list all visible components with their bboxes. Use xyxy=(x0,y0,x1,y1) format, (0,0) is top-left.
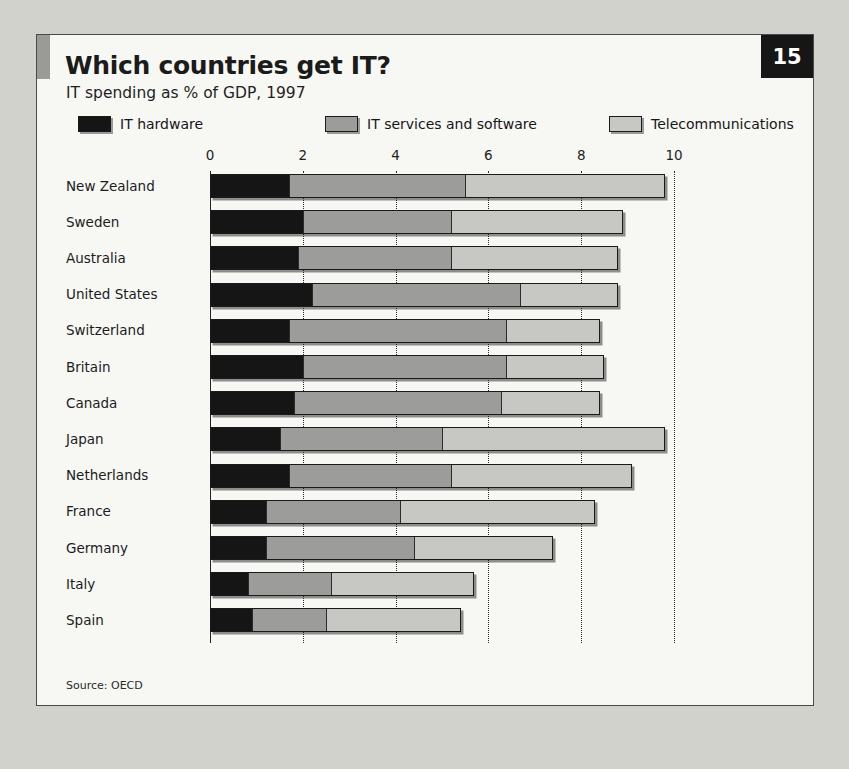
bar-segment-telecom xyxy=(332,573,474,595)
category-label-netherlands: Netherlands xyxy=(66,467,148,483)
bar-row: Sweden xyxy=(66,207,792,236)
page-background: 15 Which countries get IT? IT spending a… xyxy=(0,0,849,769)
corner-accent-bar xyxy=(37,35,50,79)
bar-segment-hardware xyxy=(211,320,289,342)
bar-rows: New ZealandSwedenAustraliaUnited StatesS… xyxy=(66,171,792,643)
bar-row: Germany xyxy=(66,533,792,562)
legend-swatch-telecom xyxy=(609,116,642,132)
bar-segment-hardware xyxy=(211,392,294,414)
legend-swatch-hardware xyxy=(78,116,111,132)
bar-segment-services xyxy=(303,356,507,378)
stacked-bar xyxy=(210,391,600,415)
bar-segment-hardware xyxy=(211,609,252,631)
stacked-bar xyxy=(210,608,461,632)
chart-title: Which countries get IT? xyxy=(65,51,391,80)
bar-segment-services xyxy=(289,175,466,197)
bar-row: Britain xyxy=(66,352,792,381)
bar-segment-services xyxy=(252,609,327,631)
stacked-bar xyxy=(210,283,618,307)
bar-segment-services xyxy=(298,247,452,269)
bar-segment-telecom xyxy=(452,465,631,487)
bar-segment-services xyxy=(289,320,507,342)
x-tick-label-4: 4 xyxy=(391,147,400,163)
category-label-japan: Japan xyxy=(66,431,104,447)
bar-segment-hardware xyxy=(211,175,289,197)
bar-segment-services xyxy=(266,501,401,523)
bar-segment-telecom xyxy=(521,284,617,306)
x-tick-label-2: 2 xyxy=(299,147,308,163)
bar-segment-telecom xyxy=(415,537,553,559)
category-label-italy: Italy xyxy=(66,576,95,592)
category-label-new-zealand: New Zealand xyxy=(66,178,155,194)
stacked-bar xyxy=(210,572,474,596)
bar-row: Italy xyxy=(66,569,792,598)
stacked-bar xyxy=(210,319,600,343)
bar-segment-services xyxy=(266,537,415,559)
legend-label-telecom: Telecommunications xyxy=(651,116,794,132)
x-tick-label-10: 10 xyxy=(665,147,682,163)
category-label-sweden: Sweden xyxy=(66,214,119,230)
x-axis-tick-labels: 0246810 xyxy=(66,147,792,171)
legend-label-hardware: IT hardware xyxy=(120,116,203,132)
legend-item-hardware: IT hardware xyxy=(78,116,203,132)
bar-segment-services xyxy=(303,211,452,233)
legend-item-telecom: Telecommunications xyxy=(609,116,794,132)
bar-segment-hardware xyxy=(211,465,289,487)
bar-segment-telecom xyxy=(401,501,594,523)
bar-segment-hardware xyxy=(211,537,266,559)
category-label-switzerland: Switzerland xyxy=(66,322,145,338)
x-tick-label-0: 0 xyxy=(206,147,215,163)
bar-segment-services xyxy=(280,428,443,450)
bar-segment-hardware xyxy=(211,501,266,523)
stacked-bar xyxy=(210,464,632,488)
stacked-bar xyxy=(210,174,665,198)
stacked-bar xyxy=(210,500,595,524)
stacked-bar xyxy=(210,246,618,270)
chart-legend: IT hardwareIT services and softwareTelec… xyxy=(66,116,792,138)
bar-segment-telecom xyxy=(452,247,617,269)
plot-area: 0246810 New ZealandSwedenAustraliaUnited… xyxy=(66,147,792,667)
bar-segment-services xyxy=(294,392,503,414)
stacked-bar xyxy=(210,210,623,234)
bar-row: Netherlands xyxy=(66,461,792,490)
bar-segment-telecom xyxy=(327,609,459,631)
stacked-bar xyxy=(210,536,553,560)
category-label-france: France xyxy=(66,503,111,519)
bar-row: France xyxy=(66,497,792,526)
bar-segment-hardware xyxy=(211,247,298,269)
legend-swatch-services xyxy=(325,116,358,132)
bar-segment-hardware xyxy=(211,573,248,595)
bar-segment-hardware xyxy=(211,284,312,306)
legend-item-services: IT services and software xyxy=(325,116,537,132)
category-label-canada: Canada xyxy=(66,395,117,411)
bar-segment-telecom xyxy=(507,356,603,378)
category-label-australia: Australia xyxy=(66,250,126,266)
bar-segment-hardware xyxy=(211,428,280,450)
chart-subtitle: IT spending as % of GDP, 1997 xyxy=(66,84,306,102)
bar-segment-hardware xyxy=(211,356,303,378)
bar-row: Australia xyxy=(66,243,792,272)
bar-row: United States xyxy=(66,280,792,309)
source-note: Source: OECD xyxy=(66,679,143,692)
stacked-bar xyxy=(210,427,665,451)
chart-panel: 15 Which countries get IT? IT spending a… xyxy=(36,34,814,706)
category-label-united-states: United States xyxy=(66,286,157,302)
bar-row: Japan xyxy=(66,424,792,453)
page-number-badge: 15 xyxy=(761,35,813,78)
category-label-britain: Britain xyxy=(66,359,110,375)
bar-segment-telecom xyxy=(507,320,599,342)
x-tick-label-6: 6 xyxy=(484,147,493,163)
bar-segment-services xyxy=(248,573,332,595)
bar-segment-telecom xyxy=(452,211,622,233)
bar-segment-services xyxy=(289,465,452,487)
bar-segment-hardware xyxy=(211,211,303,233)
category-label-germany: Germany xyxy=(66,540,128,556)
bar-row: Switzerland xyxy=(66,316,792,345)
bar-row: Spain xyxy=(66,605,792,634)
legend-label-services: IT services and software xyxy=(367,116,537,132)
bar-row: New Zealand xyxy=(66,171,792,200)
bar-segment-telecom xyxy=(443,428,664,450)
bar-segment-telecom xyxy=(466,175,664,197)
stacked-bar xyxy=(210,355,604,379)
bar-segment-telecom xyxy=(502,392,598,414)
